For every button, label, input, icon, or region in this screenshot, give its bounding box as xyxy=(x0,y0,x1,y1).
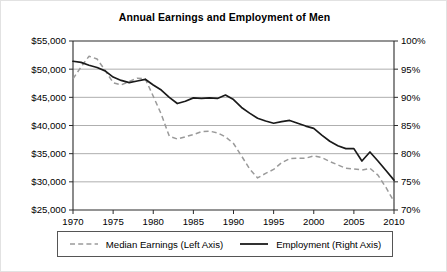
right-axis-tick-label: 75% xyxy=(401,176,421,187)
left-axis-labels: $25,000$30,000$35,000$40,000$45,000$50,0… xyxy=(31,35,66,215)
x-axis-tick-label: 2005 xyxy=(343,216,364,227)
left-axis-tick-label: $30,000 xyxy=(31,176,66,187)
series-line-median-earnings xyxy=(73,56,394,201)
right-axis-tick-label: 100% xyxy=(401,35,426,46)
right-axis-tick-label: 70% xyxy=(401,204,421,215)
right-axis-tick-label: 85% xyxy=(401,120,421,131)
x-axis-tick-label: 1990 xyxy=(223,216,244,227)
chart-figure: Annual Earnings and Employment of Men $2… xyxy=(0,0,447,272)
legend-dashed-line-icon xyxy=(69,239,99,249)
legend-label-employment: Employment (Right Axis) xyxy=(276,239,381,250)
x-axis-tick-label: 1985 xyxy=(183,216,204,227)
right-axis-tick-label: 95% xyxy=(401,64,421,75)
left-axis-tick-label: $25,000 xyxy=(31,204,66,215)
left-axis-tick-label: $55,000 xyxy=(31,35,66,46)
x-axis-tick-label: 2000 xyxy=(303,216,324,227)
x-axis-labels: 197019751980198519901995200020052010 xyxy=(62,216,404,227)
series-line-employment xyxy=(73,61,394,180)
x-axis-tick-label: 2010 xyxy=(383,216,404,227)
left-axis-tick-label: $50,000 xyxy=(31,64,66,75)
legend-item-median-earnings: Median Earnings (Left Axis) xyxy=(69,239,223,250)
legend-label-median-earnings: Median Earnings (Left Axis) xyxy=(106,239,223,250)
right-axis-tick-label: 80% xyxy=(401,148,421,159)
right-axis-labels: 70%75%80%85%90%95%100% xyxy=(401,35,426,215)
x-axis-tick-label: 1975 xyxy=(102,216,123,227)
data-series-layer xyxy=(73,56,394,201)
gridlines xyxy=(73,69,394,182)
left-axis-tick-label: $35,000 xyxy=(31,148,66,159)
x-axis-tick-label: 1970 xyxy=(62,216,83,227)
right-axis-tick-label: 90% xyxy=(401,92,421,103)
legend-item-employment: Employment (Right Axis) xyxy=(239,239,381,250)
left-axis-tick-label: $40,000 xyxy=(31,120,66,131)
tickmarks xyxy=(69,41,398,214)
x-axis-tick-label: 1995 xyxy=(263,216,284,227)
legend-solid-line-icon xyxy=(239,239,269,249)
chart-legend: Median Earnings (Left Axis) Employment (… xyxy=(57,231,393,257)
left-axis-tick-label: $45,000 xyxy=(31,92,66,103)
x-axis-tick-label: 1980 xyxy=(143,216,164,227)
